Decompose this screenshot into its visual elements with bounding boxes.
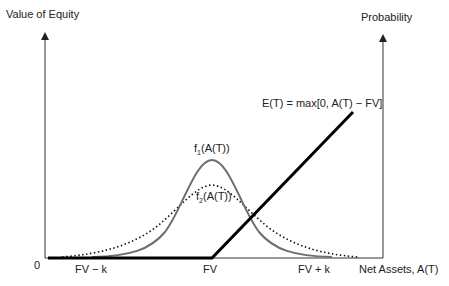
equity-payoff-line [48,112,353,258]
f1-density-curve [92,160,332,257]
payoff-formula-label: E(T) = max[0, A(T) − FV] [262,97,382,109]
f1-label: f1(A(T)) [194,142,230,156]
x-tick-fv-plus-k: FV + k [298,263,330,275]
x-tick-fv-minus-k: FV − k [75,263,107,275]
right-axis-label: Probability [361,11,412,23]
left-axis-label: Value of Equity [6,8,79,20]
origin-label: 0 [34,259,40,271]
f2-label: f2(A(T)) [196,190,232,204]
x-tick-fv: FV [203,263,217,275]
x-axis-label: Net Assets, A(T) [359,263,438,275]
